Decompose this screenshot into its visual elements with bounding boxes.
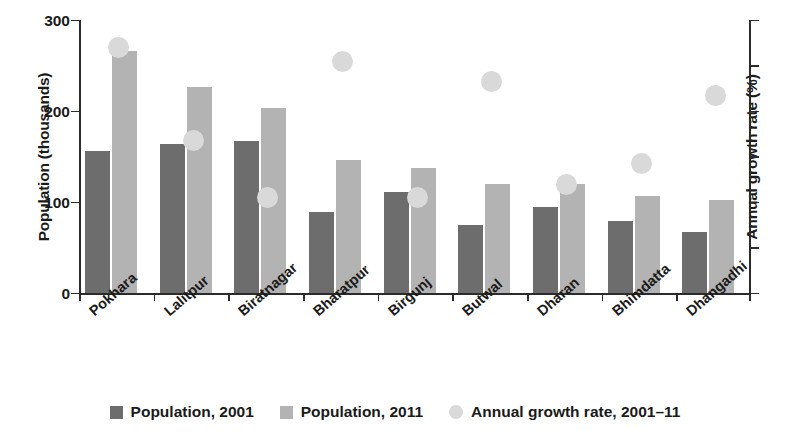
marker-annual-growth-rate — [631, 153, 652, 174]
x-axis-tick — [452, 293, 454, 301]
bar-population-2001 — [384, 192, 409, 293]
plot-area: 0100200300 0123456 — [79, 20, 751, 295]
y-axis-left-tick-label: 300 — [44, 13, 70, 29]
bar-population-2001 — [533, 207, 558, 293]
marker-annual-growth-rate — [481, 71, 502, 92]
legend-item-label: Annual growth rate, 2001–11 — [471, 403, 680, 421]
legend-square-icon — [280, 406, 293, 419]
x-axis-tick — [527, 293, 529, 301]
bar-group — [452, 20, 527, 293]
marker-annual-growth-rate — [332, 51, 353, 72]
legend-item: Population, 2001 — [110, 403, 254, 421]
bar-population-2001 — [234, 141, 259, 293]
x-axis-tick — [602, 293, 604, 301]
legend-circle-icon — [449, 405, 463, 419]
bar-group — [602, 20, 677, 293]
x-axis-tick — [749, 293, 751, 301]
bar-population-2011 — [112, 51, 137, 293]
bar-group — [527, 20, 602, 293]
legend-item-label: Population, 2011 — [301, 403, 423, 421]
bar-population-2001 — [458, 225, 483, 293]
y-axis-left-tick — [71, 20, 79, 22]
y-axis-right-tick — [751, 20, 759, 22]
x-axis-tick — [79, 293, 81, 301]
y-axis-left-tick — [71, 202, 79, 204]
legend-item: Population, 2011 — [280, 403, 423, 421]
x-axis-tick — [676, 293, 678, 301]
y-axis-right-tick — [751, 293, 759, 295]
x-axis-tick — [378, 293, 380, 301]
y-axis-left-title: Population (thousands) — [35, 17, 53, 297]
bar-group — [303, 20, 378, 293]
y-axis-right-tick — [751, 247, 759, 249]
y-axis-right-tick — [751, 65, 759, 67]
x-axis-tick — [303, 293, 305, 301]
bar-group — [378, 20, 453, 293]
legend-item: Annual growth rate, 2001–11 — [449, 403, 680, 421]
bar-population-2001 — [608, 221, 633, 294]
y-axis-left-tick — [71, 293, 79, 295]
marker-annual-growth-rate — [407, 187, 428, 208]
x-axis-tick — [228, 293, 230, 301]
bar-population-2001 — [309, 212, 334, 293]
marker-annual-growth-rate — [705, 85, 726, 106]
y-axis-left-tick-label: 0 — [61, 286, 70, 302]
y-axis-right-tick — [751, 156, 759, 158]
bar-population-2011 — [187, 87, 212, 294]
bar-population-2001 — [682, 232, 707, 293]
y-axis-left-tick-label: 200 — [44, 104, 70, 120]
marker-annual-growth-rate — [556, 174, 577, 195]
chart-legend: Population, 2001Population, 2011Annual g… — [0, 403, 790, 421]
y-axis-right-tick — [751, 202, 759, 204]
bar-group — [228, 20, 303, 293]
y-axis-right-tick — [751, 111, 759, 113]
dual-axis-bar-chart: Population (thousands) Annual growth rat… — [0, 0, 790, 441]
bar-group — [79, 20, 154, 293]
x-axis-tick — [154, 293, 156, 301]
bar-population-2011 — [485, 184, 510, 293]
bar-population-2001 — [160, 144, 185, 293]
y-axis-left-tick-label: 100 — [44, 195, 70, 211]
bar-population-2001 — [85, 151, 110, 293]
y-axis-left-tick — [71, 111, 79, 113]
legend-square-icon — [110, 406, 123, 419]
bar-group — [676, 20, 751, 293]
bar-group — [154, 20, 229, 293]
legend-item-label: Population, 2001 — [131, 403, 254, 421]
